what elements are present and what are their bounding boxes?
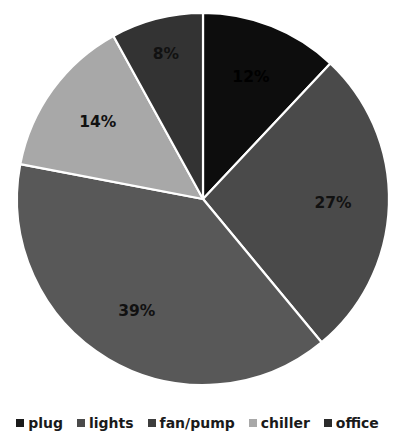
pie-chart: 12%27%39%14%8% pluglightsfan/pumpchiller…: [0, 0, 395, 438]
pie-slice-value-label: 8%: [153, 45, 180, 63]
pie-svg: 12%27%39%14%8%: [0, 0, 395, 396]
pie-plot-area: 12%27%39%14%8%: [0, 0, 395, 396]
legend-item-fan-pump[interactable]: fan/pump: [148, 416, 235, 430]
pie-slice-value-label: 12%: [232, 68, 270, 86]
legend-item-label: office: [336, 416, 379, 430]
legend-swatch-icon: [16, 419, 24, 427]
legend-swatch-icon: [249, 419, 257, 427]
pie-slice-value-label: 39%: [118, 302, 156, 320]
legend: pluglightsfan/pumpchilleroffice: [0, 408, 395, 438]
legend-swatch-icon: [77, 419, 85, 427]
pie-slice-value-label: 27%: [315, 194, 353, 212]
legend-item-chiller[interactable]: chiller: [249, 416, 310, 430]
legend-item-label: fan/pump: [160, 416, 235, 430]
legend-item-label: lights: [89, 416, 134, 430]
legend-swatch-icon: [148, 419, 156, 427]
legend-item-lights[interactable]: lights: [77, 416, 134, 430]
legend-item-office[interactable]: office: [324, 416, 379, 430]
legend-swatch-icon: [324, 419, 332, 427]
legend-item-label: chiller: [261, 416, 310, 430]
pie-slice-value-label: 14%: [79, 113, 117, 131]
legend-item-label: plug: [28, 416, 63, 430]
legend-item-plug[interactable]: plug: [16, 416, 63, 430]
